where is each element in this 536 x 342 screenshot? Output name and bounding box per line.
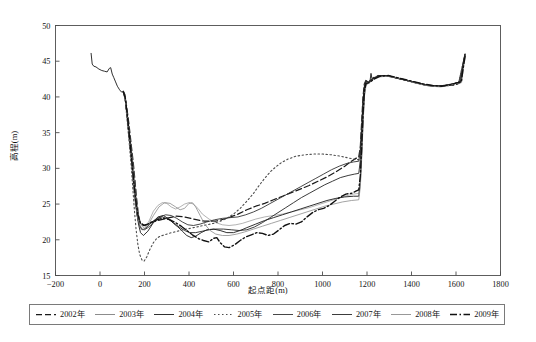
y-tick-label: 35 — [42, 129, 50, 138]
y-axis-title: 高程(m) — [7, 116, 19, 176]
legend-item-2006年[interactable]: 2006年 — [272, 310, 322, 319]
legend-swatch-light-solid-icon — [390, 310, 412, 319]
legend-label: 2004年 — [178, 310, 203, 319]
legend-item-2008年[interactable]: 2008年 — [390, 310, 440, 319]
chart-legend: 2002年2003年2004年2005年2006年2007年2008年2009年 — [29, 304, 505, 325]
plot-area: −200020040060080010001200140016001800152… — [0, 0, 536, 300]
legend-swatch-dotted-icon — [213, 310, 235, 319]
y-tick-label: 15 — [42, 272, 50, 281]
legend-label: 2002年 — [60, 310, 85, 319]
legend-item-2004年[interactable]: 2004年 — [153, 310, 203, 319]
chart-page: −200020040060080010001200140016001800152… — [0, 0, 536, 342]
y-tick-label: 30 — [42, 164, 50, 173]
series-group — [91, 53, 465, 261]
legend-item-2003年[interactable]: 2003年 — [94, 310, 144, 319]
chart-canvas: −200020040060080010001200140016001800152… — [0, 0, 536, 300]
legend-swatch-solid-icon — [272, 310, 294, 319]
y-tick-label: 25 — [42, 200, 50, 209]
legend-label: 2006年 — [297, 310, 322, 319]
legend-swatch-dash-dot-icon — [449, 310, 471, 319]
plot-frame — [56, 26, 501, 276]
legend-swatch-dashed-icon — [35, 310, 57, 319]
x-axis-title: 起点距(m) — [0, 283, 536, 295]
y-tick-label: 45 — [42, 57, 50, 66]
legend-item-2005年[interactable]: 2005年 — [213, 310, 263, 319]
legend-item-2002年[interactable]: 2002年 — [35, 310, 85, 319]
legend-swatch-solid-icon — [153, 310, 175, 319]
legend-item-2009年[interactable]: 2009年 — [449, 310, 499, 319]
series-line-2005年 — [123, 56, 465, 262]
y-tick-label: 50 — [42, 22, 50, 31]
y-tick-label: 20 — [42, 236, 50, 245]
legend-label: 2007年 — [356, 310, 381, 319]
y-tick-label: 40 — [42, 93, 50, 102]
legend-swatch-solid-icon — [331, 310, 353, 319]
legend-swatch-thin-solid-icon — [94, 310, 116, 319]
legend-item-2007年[interactable]: 2007年 — [331, 310, 381, 319]
series-line-2002年 — [123, 55, 465, 226]
legend-label: 2003年 — [119, 310, 144, 319]
legend-label: 2005年 — [238, 310, 263, 319]
legend-label: 2008年 — [415, 310, 440, 319]
series-line-2009年 — [123, 55, 465, 248]
legend-label: 2009年 — [474, 310, 499, 319]
